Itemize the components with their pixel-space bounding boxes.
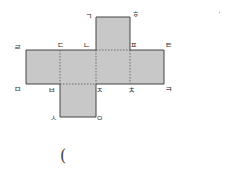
vertex-label: ㅎ — [132, 10, 139, 19]
face-bottom — [60, 84, 96, 117]
face-top — [96, 17, 130, 50]
vertex-label: ㅍ — [130, 41, 137, 50]
vertex-label: ㅇ — [96, 114, 103, 123]
vertex-label: ㅂ — [48, 86, 55, 95]
cube-net-diagram: ㄱ ㅎ ㄹ ㄷ ㄴ ㅍ ㅌ ㅁ ㅂ ㅈ ㅊ ㅋ ㅅ ㅇ — [0, 0, 228, 180]
vertex-label: ㄴ — [83, 41, 90, 50]
vertex-label: ㅊ — [128, 86, 135, 95]
vertex-label: ㅋ — [165, 85, 172, 94]
speck — [219, 12, 220, 13]
face-row — [26, 50, 164, 84]
vertex-label: ㄹ — [14, 43, 21, 52]
vertex-label: ㄷ — [57, 41, 64, 50]
answer-blank: ( — [60, 146, 66, 165]
vertex-label: ㅌ — [165, 41, 172, 50]
vertex-label: ㄱ — [85, 12, 92, 21]
vertex-label: ㅁ — [14, 85, 21, 94]
vertex-label: ㅈ — [96, 86, 103, 95]
vertex-label: ㅅ — [50, 114, 57, 123]
